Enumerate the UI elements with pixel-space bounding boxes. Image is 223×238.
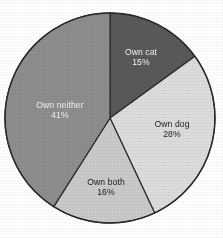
slice-label-own-both-value: 16% (73, 187, 139, 197)
slice-label-own-dog-name: Own dog (141, 119, 203, 129)
slice-label-own-neither-name: Own neither (22, 100, 98, 110)
slice-label-own-dog-value: 28% (141, 129, 203, 139)
slice-label-own-cat-value: 15% (110, 57, 172, 67)
pie-chart: Own cat 15% Own dog 28% Own both 16% Own… (0, 0, 223, 238)
slice-label-own-neither: Own neither 41% (22, 100, 98, 120)
slice-label-own-cat: Own cat 15% (110, 47, 172, 67)
slice-label-own-both: Own both 16% (73, 177, 139, 197)
slice-label-own-both-name: Own both (73, 177, 139, 187)
slice-label-own-neither-value: 41% (22, 110, 98, 120)
slice-label-own-cat-name: Own cat (110, 47, 172, 57)
slice-label-own-dog: Own dog 28% (141, 119, 203, 139)
